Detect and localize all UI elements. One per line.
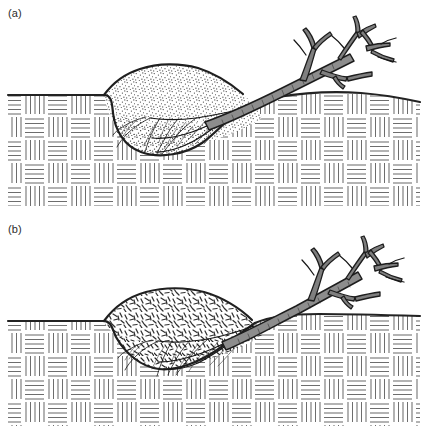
panel-a-label: (a)	[8, 8, 22, 19]
panel-a: (a)	[0, 0, 428, 216]
panel-b-label: (b)	[8, 224, 22, 235]
panel-b: (b)	[0, 216, 428, 432]
panel-a-scene	[0, 0, 428, 216]
panel-b-scene	[0, 216, 428, 432]
panel-a-drawing	[0, 0, 428, 216]
panel-b-drawing	[0, 216, 428, 432]
figure-tree-throw-cross-sections: (a)	[0, 0, 428, 432]
